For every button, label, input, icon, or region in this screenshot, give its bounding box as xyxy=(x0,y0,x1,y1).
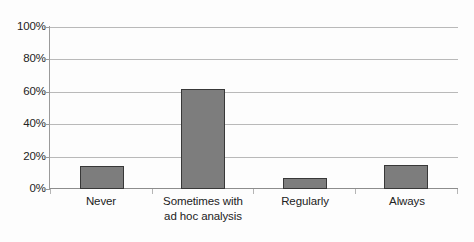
x-tick-label-never: Never xyxy=(50,194,152,209)
x-tick-label-sometimes-line1: Sometimes with xyxy=(163,195,243,207)
y-tick-label-20: 20% xyxy=(2,151,46,163)
x-axis-labels: Never Sometimes with ad hoc analysis Reg… xyxy=(50,194,458,238)
bar-regularly xyxy=(283,178,327,189)
bar-sometimes xyxy=(181,89,225,189)
bar-never xyxy=(80,166,124,189)
x-tick-label-sometimes: Sometimes with ad hoc analysis xyxy=(152,194,254,223)
gridline-80 xyxy=(50,59,458,60)
y-tick-label-100: 100% xyxy=(2,21,46,33)
y-tick-label-0: 0% xyxy=(2,183,46,195)
gridline-40 xyxy=(50,124,458,125)
y-tick-label-40: 40% xyxy=(2,118,46,130)
gridline-100 xyxy=(50,27,458,28)
y-tick-label-80: 80% xyxy=(2,53,46,65)
plot-area xyxy=(50,27,458,189)
x-tick-label-regularly-line1: Regularly xyxy=(281,195,329,207)
gridline-60 xyxy=(50,92,458,93)
x-tick-label-sometimes-line2: ad hoc analysis xyxy=(152,209,254,224)
gridline-20 xyxy=(50,157,458,158)
x-tick-label-regularly: Regularly xyxy=(254,194,356,209)
y-tick-label-60: 60% xyxy=(2,86,46,98)
x-tick-label-always-line1: Always xyxy=(389,195,425,207)
bar-always xyxy=(384,165,428,189)
x-tick-label-always: Always xyxy=(356,194,458,209)
y-axis-labels: 100% 80% 60% 40% 20% 0% xyxy=(0,0,46,242)
bar-chart: 100% 80% 60% 40% 20% 0% Never Some xyxy=(0,0,474,242)
x-tick-label-never-line1: Never xyxy=(86,195,116,207)
